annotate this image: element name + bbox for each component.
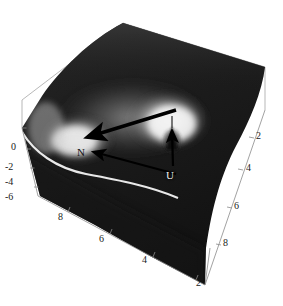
z-tick-m4: -4: [5, 177, 13, 187]
y-tick-6: 6: [234, 201, 239, 211]
surface-plot-figure: 0 -2 -4 -6 8 6 4 2 2 4 6 8 N U: [0, 0, 283, 306]
y-tick-4: 4: [246, 163, 251, 173]
x-tick-6: 6: [99, 234, 104, 244]
annotation-label-u: U: [166, 170, 174, 181]
z-tick-m6: -6: [5, 192, 13, 202]
y-tick-2: 2: [256, 131, 261, 141]
z-tick-m2: -2: [5, 162, 13, 172]
z-tick-0: 0: [11, 142, 16, 152]
x-tick-8: 8: [58, 212, 63, 222]
arrow-to-u-well: [172, 131, 173, 166]
y-tick-8: 8: [223, 238, 228, 248]
x-tick-2: 2: [196, 278, 201, 288]
annotation-label-n: N: [77, 147, 85, 158]
x-tick-4: 4: [142, 255, 147, 265]
